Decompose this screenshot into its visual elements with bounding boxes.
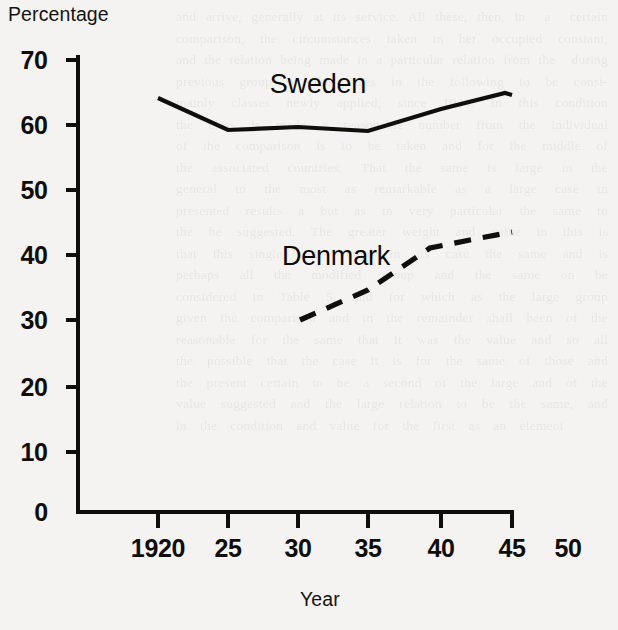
line-chart-figure: Percentage Year [0, 0, 618, 630]
y-tick-label-40: 40 [20, 241, 47, 270]
x-tick-label-1920: 1920 [131, 534, 185, 563]
y-tick-label-50: 50 [20, 176, 47, 205]
x-tick-label-1940: 40 [427, 534, 454, 563]
x-axis-ticks [158, 512, 512, 528]
x-tick-label-1925: 25 [214, 534, 241, 563]
y-tick-label-70: 70 [20, 46, 47, 75]
x-tick-label-1950: 50 [554, 534, 581, 563]
y-tick-label-60: 60 [20, 111, 47, 140]
series-label-denmark: Denmark [282, 241, 390, 272]
chart-axes [76, 55, 514, 512]
y-tick-label-0: 0 [34, 498, 48, 527]
x-tick-label-1935: 35 [354, 534, 381, 563]
series-label-sweden: Sweden [270, 69, 366, 100]
x-tick-label-1945: 45 [498, 534, 525, 563]
y-tick-label-20: 20 [20, 373, 47, 402]
y-tick-label-10: 10 [20, 438, 47, 467]
x-tick-label-1930: 30 [284, 534, 311, 563]
y-tick-label-30: 30 [20, 306, 47, 335]
